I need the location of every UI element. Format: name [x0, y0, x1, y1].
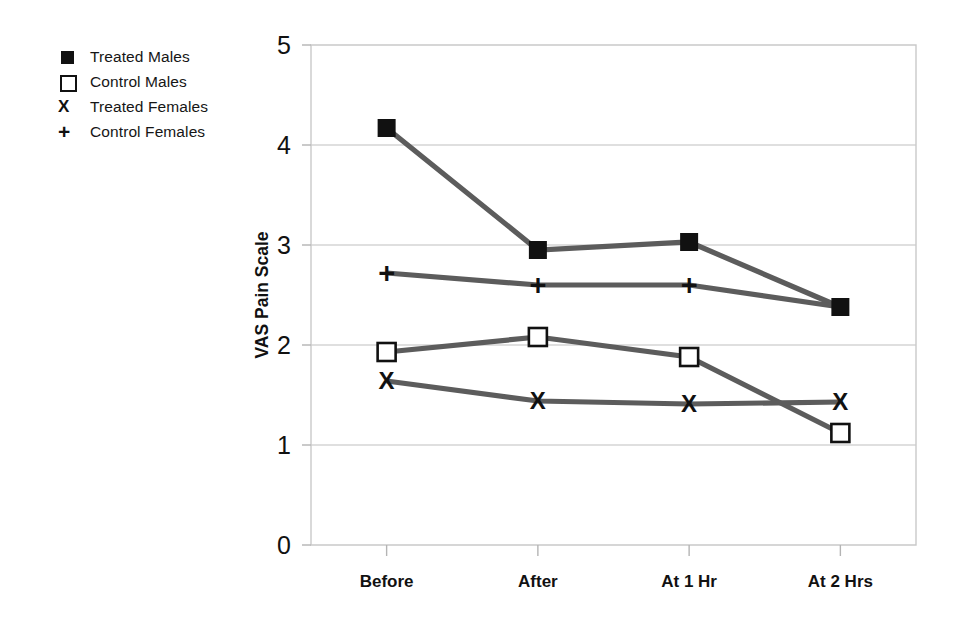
chart-figure: Treated Males Control Males X Treated Fe… [0, 0, 975, 625]
x-tick-label: At 2 Hrs [808, 572, 873, 591]
y-tick-label: 2 [277, 331, 291, 359]
y-tick-label: 0 [277, 531, 291, 559]
data-point-treated-females: X [379, 367, 395, 394]
chart-plot-area: 012345 XXXX++++ BeforeAfterAt 1 HrAt 2 H… [0, 0, 975, 625]
series-line-control-males [387, 337, 841, 433]
data-point-control-males [378, 343, 396, 361]
x-tick-label: At 1 Hr [661, 572, 717, 591]
data-point-treated-females: X [681, 390, 697, 417]
data-point-treated-males [529, 241, 547, 259]
y-axis-tick-labels: 012345 [277, 31, 291, 559]
data-point-control-females: + [529, 269, 546, 301]
data-point-control-females: + [832, 291, 849, 323]
data-point-control-males [529, 328, 547, 346]
y-axis-title: VAS Pain Scale [252, 231, 272, 358]
series-lines [387, 128, 841, 433]
x-tick-label: After [518, 572, 558, 591]
y-tick-label: 5 [277, 31, 291, 59]
data-point-treated-males [680, 233, 698, 251]
data-point-control-females: + [681, 269, 698, 301]
y-axis-title-text: VAS Pain Scale [252, 231, 272, 358]
data-point-treated-females: X [530, 387, 546, 414]
x-axis-tick-labels: BeforeAfterAt 1 HrAt 2 Hrs [360, 572, 873, 591]
data-point-control-males [831, 424, 849, 442]
plot-border [311, 45, 916, 545]
chart-svg: 012345 XXXX++++ BeforeAfterAt 1 HrAt 2 H… [0, 0, 975, 625]
data-point-control-males [680, 348, 698, 366]
data-point-treated-males [378, 119, 396, 137]
y-tick-label: 3 [277, 231, 291, 259]
data-point-treated-females: X [832, 388, 848, 415]
plot-frame [311, 45, 916, 545]
y-tick-label: 4 [277, 131, 291, 159]
y-tick-label: 1 [277, 431, 291, 459]
data-point-control-females: + [378, 257, 395, 289]
x-tick-label: Before [360, 572, 414, 591]
series-line-treated-females [387, 381, 841, 404]
